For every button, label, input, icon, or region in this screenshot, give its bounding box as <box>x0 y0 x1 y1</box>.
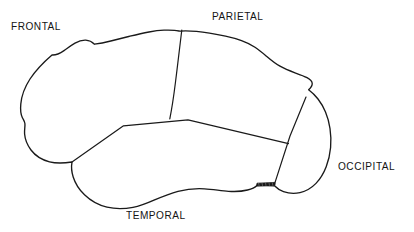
lobe-label-occipital: OCCIPITAL <box>338 160 395 172</box>
brain-diagram: FRONTAL PARIETAL OCCIPITAL TEMPORAL <box>0 0 414 232</box>
lobe-label-frontal: FRONTAL <box>11 20 61 32</box>
cerebellum-notch-mark <box>257 182 276 186</box>
lobe-label-parietal: PARIETAL <box>212 10 263 22</box>
lobe-label-temporal: TEMPORAL <box>126 209 186 221</box>
brain-illustration <box>0 0 414 232</box>
diagram-background <box>0 0 414 232</box>
